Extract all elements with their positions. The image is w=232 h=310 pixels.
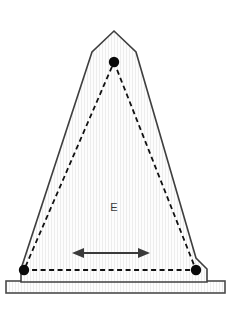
diagram-svg: E [0, 0, 232, 310]
bottom-left-vertex-dot [19, 265, 29, 275]
apex-vertex-dot [109, 57, 119, 67]
tent-outline [21, 31, 207, 282]
bottom-right-vertex-dot [191, 265, 201, 275]
region-label-e: E [110, 201, 117, 213]
figure-canvas: E [0, 0, 232, 310]
